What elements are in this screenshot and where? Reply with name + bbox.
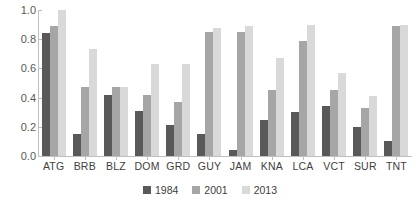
x-axis-tick-label: LCA <box>287 160 318 172</box>
bar <box>197 134 205 156</box>
legend-label: 2013 <box>254 184 277 196</box>
bar <box>299 41 307 156</box>
x-axis-tick-label: KNA <box>256 160 287 172</box>
bar <box>307 25 315 156</box>
bar <box>237 32 245 156</box>
bar-group <box>287 10 318 156</box>
bar <box>135 111 143 156</box>
bar-group <box>132 10 163 156</box>
y-axis-tick-label: 1.0 <box>2 4 36 16</box>
bar <box>322 106 330 156</box>
bar <box>120 87 128 156</box>
bar <box>268 90 276 156</box>
bar-group <box>100 10 131 156</box>
bar <box>291 112 299 156</box>
bar <box>213 28 221 156</box>
legend-swatch-icon <box>143 186 151 194</box>
bar <box>174 102 182 156</box>
bar <box>50 26 58 156</box>
legend-swatch-icon <box>192 186 200 194</box>
bar-group <box>381 10 412 156</box>
bar <box>229 150 237 156</box>
legend-label: 2001 <box>204 184 227 196</box>
x-axis-tick-label: BLZ <box>100 160 131 172</box>
bar <box>104 95 112 156</box>
bar <box>42 33 50 156</box>
x-axis-tick-label: BRB <box>69 160 100 172</box>
bar <box>81 87 89 156</box>
bar-group <box>225 10 256 156</box>
x-axis-tick-label: SUR <box>350 160 381 172</box>
y-axis-tick-label: 0.6 <box>2 62 36 74</box>
x-axis-tick-label: JAM <box>225 160 256 172</box>
chart-legend: 198420012013 <box>0 184 420 196</box>
y-axis-tick-mark <box>38 68 42 69</box>
bar <box>392 26 400 156</box>
bar <box>73 134 81 156</box>
x-axis-tick-labels: ATGBRBBLZDOMGRDGUYJAMKNALCAVCTSURTNT <box>38 160 412 172</box>
legend-label: 1984 <box>155 184 178 196</box>
y-axis-tick-labels: 1.00.80.60.40.20.0 <box>0 10 36 156</box>
y-axis-tick-mark <box>38 98 42 99</box>
y-axis-tick-label: 0.8 <box>2 33 36 45</box>
legend-swatch-icon <box>242 186 250 194</box>
bar-group <box>194 10 225 156</box>
legend-item[interactable]: 2013 <box>242 184 277 196</box>
y-axis-tick-mark <box>38 127 42 128</box>
x-axis-tick-label: GUY <box>194 160 225 172</box>
bar-group <box>38 10 69 156</box>
bar <box>400 25 408 156</box>
bar <box>260 120 268 157</box>
bar <box>143 95 151 156</box>
bar <box>361 108 369 156</box>
bar <box>353 127 361 156</box>
bar <box>276 58 284 156</box>
bar <box>151 64 159 156</box>
x-axis-tick-label: DOM <box>132 160 163 172</box>
y-axis-tick-mark <box>38 10 42 11</box>
bar <box>182 64 190 156</box>
bar-group <box>163 10 194 156</box>
x-axis-tick-label: GRD <box>163 160 194 172</box>
bar <box>166 125 174 156</box>
x-axis-tick-label: VCT <box>319 160 350 172</box>
bar-groups <box>38 10 412 156</box>
y-axis-tick-mark <box>38 156 42 157</box>
x-axis-tick-label: TNT <box>381 160 412 172</box>
y-axis-tick-label: 0.0 <box>2 150 36 162</box>
bar-chart: 1.00.80.60.40.20.0 ATGBRBBLZDOMGRDGUYJAM… <box>0 0 420 205</box>
y-axis-tick-label: 0.4 <box>2 92 36 104</box>
bar <box>369 96 377 156</box>
x-axis-tick-label: ATG <box>38 160 69 172</box>
y-axis-tick-label: 0.2 <box>2 121 36 133</box>
bar-group <box>350 10 381 156</box>
bar-group <box>256 10 287 156</box>
bar-group <box>319 10 350 156</box>
bar <box>58 10 66 156</box>
bar <box>205 32 213 156</box>
legend-item[interactable]: 1984 <box>143 184 178 196</box>
bar <box>384 141 392 156</box>
bar <box>338 73 346 156</box>
bar <box>330 90 338 156</box>
legend-item[interactable]: 2001 <box>192 184 227 196</box>
x-axis-line <box>38 156 412 157</box>
bar-group <box>69 10 100 156</box>
bar <box>112 87 120 156</box>
bar <box>89 49 97 156</box>
bar <box>245 26 253 156</box>
y-axis-tick-mark <box>38 39 42 40</box>
